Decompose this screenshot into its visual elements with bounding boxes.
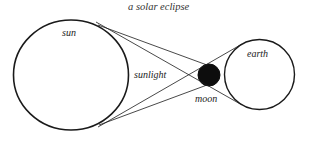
diagram-title: a solar eclipse <box>128 2 189 13</box>
sunlight-label: sunlight <box>134 70 166 80</box>
ray-bottom-to-earth-top <box>98 44 242 127</box>
moon-label: moon <box>195 94 217 104</box>
ray-top-to-earth-bottom <box>96 22 242 105</box>
earth-label: earth <box>247 49 268 59</box>
ray-top-to-moon-top <box>98 25 207 65</box>
sun-label: sun <box>62 28 76 38</box>
ray-bottom-to-moon-bottom <box>99 85 207 125</box>
